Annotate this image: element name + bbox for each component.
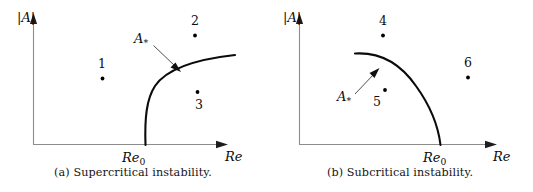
x-threshold-label-b: Re0	[422, 150, 446, 167]
curve-annotation-arrowhead-b	[370, 68, 380, 78]
point-marker-2	[193, 34, 197, 38]
x-axis-label-b: Re	[492, 149, 511, 164]
plot-subcritical: |A| Re Re0 A* 4 5 6	[267, 0, 533, 168]
point-marker-6	[466, 76, 470, 80]
panel-supercritical: |A| Re Re0 A* 1 2 3 (a) Supercritical in…	[0, 0, 266, 192]
plot-supercritical: |A| Re Re0 A* 1 2 3	[0, 0, 266, 168]
point-label-2: 2	[191, 13, 199, 28]
point-label-5: 5	[373, 94, 381, 109]
point-label-4: 4	[379, 13, 387, 28]
x-axis-arrowhead	[216, 141, 228, 149]
point-marker-1	[101, 77, 105, 81]
caption-supercritical: (a) Supercritical instability.	[0, 166, 266, 179]
bifurcation-curve-supercritical	[145, 55, 235, 145]
caption-subcritical: (b) Subcritical instability.	[267, 166, 533, 179]
bifurcation-curve-subcritical	[355, 53, 441, 145]
point-marker-5	[383, 88, 387, 92]
x-axis-label-a: Re	[224, 149, 243, 164]
curve-annotation-label-a: A*	[133, 31, 148, 48]
curve-annotation-label-b: A*	[336, 89, 351, 106]
panel-subcritical: |A| Re Re0 A* 4 5 6 (b) Subcritical inst…	[267, 0, 533, 192]
y-axis-label-a: |A|	[17, 10, 35, 25]
curve-annotation-leader-a	[154, 46, 176, 67]
point-label-1: 1	[98, 56, 106, 71]
point-marker-3	[196, 90, 200, 94]
x-threshold-label-a: Re0	[121, 150, 145, 167]
figure-container: |A| Re Re0 A* 1 2 3 (a) Supercritical in…	[0, 0, 533, 192]
curve-annotation-leader-b	[355, 74, 374, 94]
point-label-3: 3	[195, 97, 203, 112]
point-marker-4	[381, 34, 385, 38]
point-label-6: 6	[464, 55, 472, 70]
y-axis-label-b: |A|	[283, 10, 301, 25]
x-axis-arrowhead	[485, 141, 497, 149]
